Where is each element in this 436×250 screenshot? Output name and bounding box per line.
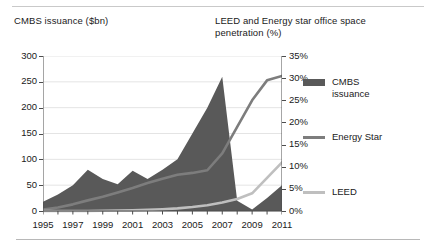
chart-figure: CMBS issuance ($bn) LEED and Energy star… xyxy=(0,0,436,250)
x-axis-tick-label: 2003 xyxy=(148,219,178,230)
legend-swatch-leed-icon xyxy=(303,191,325,194)
series-area-cmbs-issuance xyxy=(43,77,282,211)
left-axis-tick-mark xyxy=(39,159,43,160)
right-axis-tick-mark xyxy=(282,167,286,168)
legend-swatch-energy-star-icon xyxy=(303,136,325,139)
left-axis-title: CMBS issuance ($bn) xyxy=(14,15,194,27)
right-axis-title: LEED and Energy star office space penetr… xyxy=(215,15,380,38)
right-axis-tick-mark xyxy=(282,145,286,146)
legend-item-leed: LEED xyxy=(303,186,357,198)
x-axis-tick-label: 2011 xyxy=(267,219,297,230)
left-axis-tick-label: 250 xyxy=(7,75,37,86)
legend-item-cmbs-issuance: CMBS issuance xyxy=(303,76,370,99)
right-axis-tick-mark xyxy=(282,78,286,79)
x-axis-tick-label: 2001 xyxy=(118,219,148,230)
left-axis-tick-mark xyxy=(39,134,43,135)
right-axis-tick-label: 20% xyxy=(289,116,323,127)
x-axis-tick-label: 1997 xyxy=(58,219,88,230)
left-axis-tick-label: 0 xyxy=(7,205,37,216)
bottom-divider xyxy=(16,239,420,240)
left-axis-tick-label: 150 xyxy=(7,127,37,138)
left-axis-tick-label: 50 xyxy=(7,179,37,190)
right-axis-tick-mark xyxy=(282,211,286,212)
right-axis-tick-mark xyxy=(282,122,286,123)
right-axis-tick-mark xyxy=(282,56,286,57)
right-axis-tick-mark xyxy=(282,189,286,190)
plot-canvas xyxy=(43,56,282,216)
legend-label-leed: LEED xyxy=(332,186,357,198)
left-axis-tick-label: 300 xyxy=(7,50,37,61)
left-axis-tick-label: 100 xyxy=(7,153,37,164)
x-axis-tick-label: 1999 xyxy=(88,219,118,230)
x-axis-tick-label: 2009 xyxy=(237,219,267,230)
legend-label-energy-star: Energy Star xyxy=(332,131,382,143)
x-axis-tick-label: 2005 xyxy=(177,219,207,230)
legend-label-cmbs: CMBS issuance xyxy=(332,76,370,99)
left-axis-tick-label: 200 xyxy=(7,101,37,112)
plot-area xyxy=(43,56,282,211)
legend-swatch-cmbs-icon xyxy=(303,79,325,86)
left-axis-tick-mark xyxy=(39,185,43,186)
left-axis-tick-mark xyxy=(39,82,43,83)
right-axis-tick-label: 0% xyxy=(289,205,323,216)
legend-item-energy-star: Energy Star xyxy=(303,131,382,143)
x-axis-tick-label: 1995 xyxy=(28,219,58,230)
right-axis-tick-label: 10% xyxy=(289,160,323,171)
left-axis-tick-mark xyxy=(39,108,43,109)
left-axis-tick-mark xyxy=(39,211,43,212)
right-axis-tick-label: 35% xyxy=(289,50,323,61)
top-divider xyxy=(12,6,424,7)
right-axis-tick-mark xyxy=(282,100,286,101)
left-axis-tick-mark xyxy=(39,56,43,57)
x-axis-tick-label: 2007 xyxy=(207,219,237,230)
